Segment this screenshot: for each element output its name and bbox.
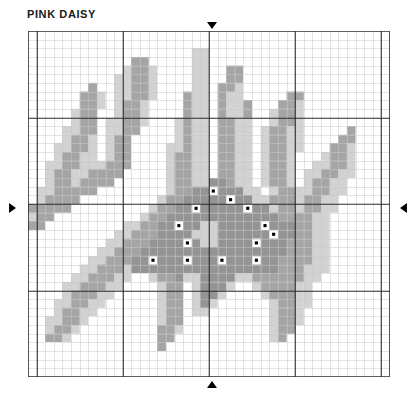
page-title: PINK DAISY (27, 8, 96, 20)
pattern-grid[interactable] (28, 31, 390, 377)
center-marker-right-icon (400, 203, 407, 213)
center-marker-bottom-icon (207, 381, 217, 388)
pattern-grid-canvas[interactable] (28, 31, 390, 377)
center-marker-top-icon (207, 22, 217, 29)
center-marker-left-icon (9, 203, 16, 213)
